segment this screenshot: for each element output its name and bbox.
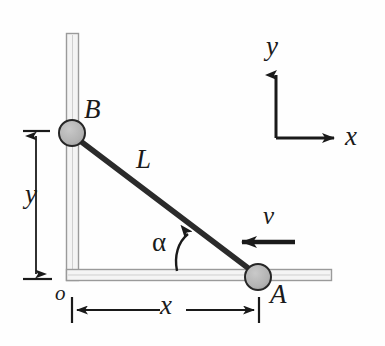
label-dimension-x: x — [160, 292, 172, 319]
slider-a — [245, 264, 271, 290]
label-slider-b: B — [84, 96, 101, 123]
slider-b — [59, 120, 85, 146]
coordinate-axes — [276, 75, 334, 138]
label-velocity: v — [263, 203, 274, 228]
physics-diagram-figure: B A L o y x v α y x — [0, 0, 385, 346]
label-dimension-y: y — [25, 181, 37, 208]
label-axis-y: y — [266, 33, 278, 60]
label-slider-a: A — [270, 281, 287, 308]
label-rod-length: L — [136, 146, 151, 173]
label-origin: o — [55, 283, 66, 304]
label-angle-alpha: α — [152, 229, 166, 256]
label-axis-x: x — [345, 123, 357, 150]
angle-arc-arrow — [176, 234, 188, 271]
